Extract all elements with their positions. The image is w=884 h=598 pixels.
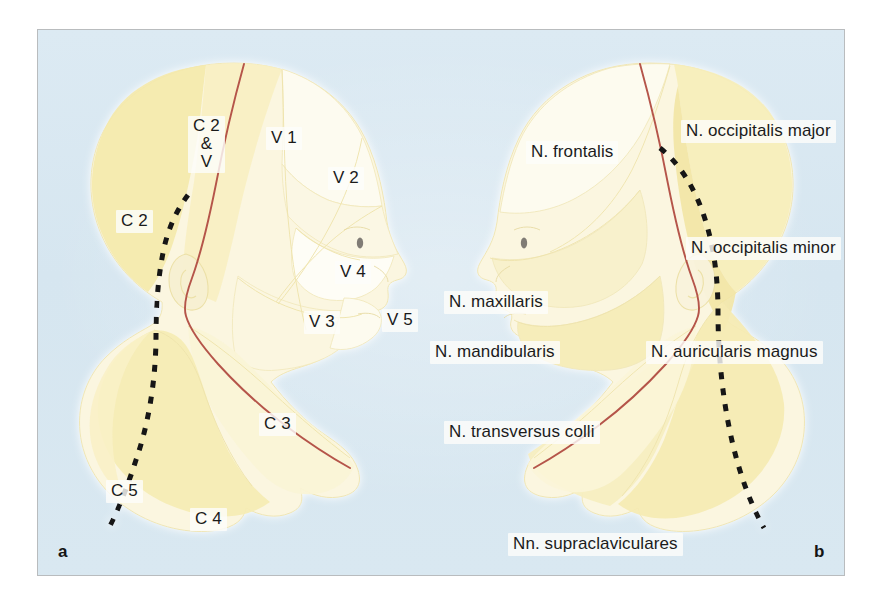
figure-frame: C 2 & V C 2 V 1 V 2 V 4 V 3 V 5 C 3 C 5 … — [37, 29, 845, 576]
label-dermatome-v1: V 1 — [266, 127, 302, 150]
label-nerve-occipitalis-major: N. occipitalis major — [681, 120, 836, 143]
panel-letter-a: a — [58, 542, 67, 562]
label-dermatome-c3: C 3 — [259, 413, 296, 436]
label-dermatome-c5: C 5 — [106, 480, 143, 503]
anatomy-illustration — [38, 30, 845, 576]
label-dermatome-v4: V 4 — [335, 261, 371, 284]
figure-root: C 2 & V C 2 V 1 V 2 V 4 V 3 V 5 C 3 C 5 … — [0, 0, 884, 598]
label-dermatome-v3: V 3 — [304, 311, 340, 334]
label-nerve-maxillaris: N. maxillaris — [444, 291, 548, 314]
panel-a-eye — [357, 238, 363, 249]
panel-b-eye — [521, 238, 527, 249]
label-nerve-frontalis: N. frontalis — [526, 141, 618, 164]
label-dermatome-v2: V 2 — [328, 167, 364, 190]
label-line: & — [193, 135, 220, 153]
label-dermatome-c2: C 2 — [116, 210, 153, 233]
panel-a-figure — [80, 63, 407, 531]
label-nerve-supraclaviculares: Nn. supraclaviculares — [508, 533, 683, 556]
label-nerve-mandibularis: N. mandibularis — [430, 341, 560, 364]
panel-letter-b: b — [814, 542, 824, 562]
label-nerve-transversus-colli: N. transversus colli — [444, 421, 600, 444]
label-nerve-auricularis-magnus: N. auricularis magnus — [646, 341, 823, 364]
label-dermatome-c4: C 4 — [190, 508, 227, 531]
label-line: C 2 — [193, 117, 220, 135]
label-line: V — [193, 153, 220, 171]
label-dermatome-c2-and-v: C 2 & V — [188, 116, 225, 173]
label-dermatome-v5: V 5 — [382, 309, 418, 332]
label-nerve-occipitalis-minor: N. occipitalis minor — [686, 237, 841, 260]
